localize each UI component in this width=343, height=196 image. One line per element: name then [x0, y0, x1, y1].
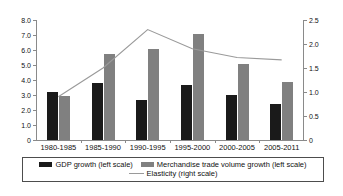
legend-label-merchandise-trade-volume-growth: Merchandise trade volume growth (left sc…	[157, 160, 307, 169]
gray-line-swatch-icon	[129, 173, 144, 174]
elasticity-line-series	[36, 20, 304, 140]
legend-row-primary: GDP growth (left scale) Merchandise trad…	[23, 160, 323, 169]
legend-item-merchandise-trade-volume-growth: Merchandise trade volume growth (left sc…	[141, 160, 307, 169]
right-axis-tick-label: 0.5	[309, 113, 319, 120]
right-axis-tick-label: 0	[309, 137, 313, 144]
bar-line-combo-chart: 01.02.03.04.05.06.07.08.0 00.51.01.52.02…	[0, 0, 343, 196]
elasticity-polyline	[58, 30, 281, 97]
legend-row-secondary: Elasticity (right scale)	[23, 169, 323, 178]
x-axis-tick-label: 2000-2005	[215, 143, 260, 152]
right-axis-tick	[304, 68, 307, 69]
x-axis-tick-label: 1980-1985	[36, 143, 81, 152]
x-axis-tick-label: 2005-2011	[259, 143, 304, 152]
legend-label-gdp-growth: GDP growth (left scale)	[55, 160, 132, 169]
right-axis-tick	[304, 44, 307, 45]
left-axis-tick-label: 5.0	[0, 62, 31, 69]
right-axis-tick-label: 1.5	[309, 65, 319, 72]
left-axis-tick-label: 8.0	[0, 17, 31, 24]
legend-label-elasticity: Elasticity (right scale)	[147, 169, 218, 178]
left-axis-tick-label: 1.0	[0, 122, 31, 129]
right-axis-tick-label: 1.0	[309, 89, 319, 96]
legend-item-gdp-growth: GDP growth (left scale)	[39, 160, 132, 169]
left-axis-tick-label: 3.0	[0, 92, 31, 99]
right-axis-tick-label: 2.0	[309, 41, 319, 48]
left-axis-tick-label: 6.0	[0, 47, 31, 54]
left-axis-tick-label: 2.0	[0, 107, 31, 114]
right-axis-tick-label: 2.5	[309, 17, 319, 24]
right-axis-tick	[304, 92, 307, 93]
black-square-swatch-icon	[39, 162, 52, 167]
gray-square-swatch-icon	[141, 162, 154, 167]
left-axis-tick-label: 0	[0, 137, 31, 144]
x-axis-tick-label: 1995-2000	[170, 143, 215, 152]
x-axis-tick-label: 1990-1995	[125, 143, 170, 152]
left-axis-tick	[33, 140, 36, 141]
x-axis-tick-label: 1985-1990	[81, 143, 126, 152]
legend-item-elasticity: Elasticity (right scale)	[129, 169, 218, 178]
left-axis-tick-label: 7.0	[0, 32, 31, 39]
right-axis-tick	[304, 116, 307, 117]
left-axis-tick-label: 4.0	[0, 77, 31, 84]
chart-legend: GDP growth (left scale) Merchandise trad…	[22, 157, 324, 182]
right-axis-tick	[304, 20, 307, 21]
right-axis-tick	[304, 140, 307, 141]
